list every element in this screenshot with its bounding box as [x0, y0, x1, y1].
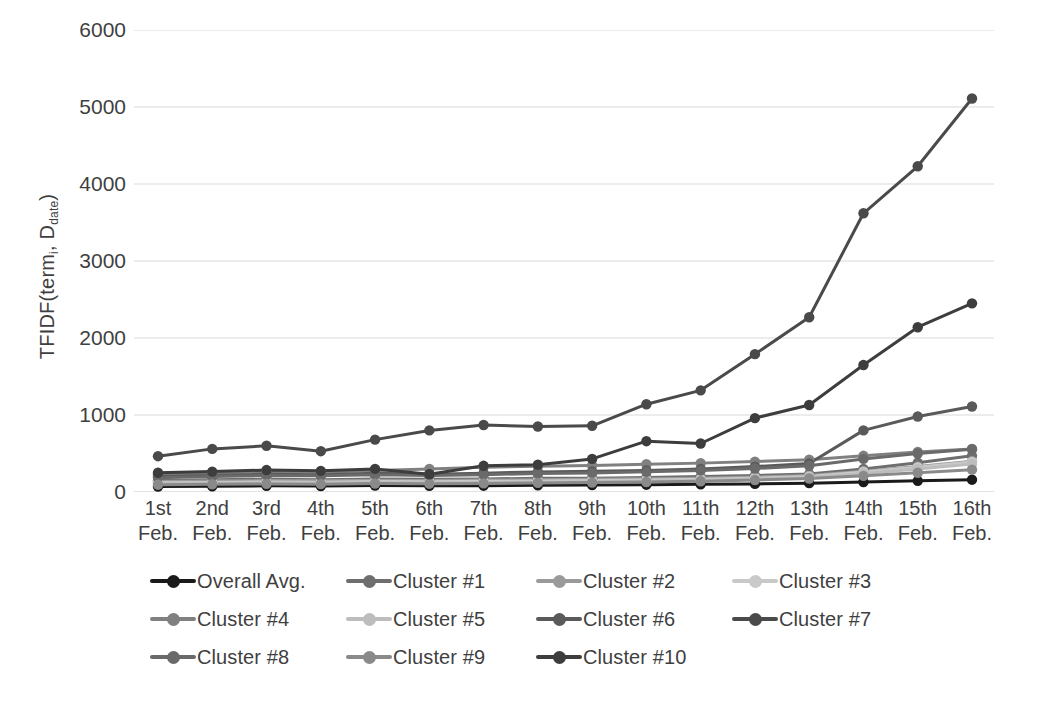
data-point-marker: [587, 477, 597, 487]
data-point-marker: [587, 468, 597, 478]
data-point-marker: [695, 476, 705, 486]
data-point-marker: [153, 479, 163, 489]
legend-item[interactable]: Cluster #2: [536, 570, 732, 593]
data-point-marker: [913, 161, 923, 171]
x-axis-tick: 12thFeb.: [735, 496, 775, 546]
data-point-marker: [261, 465, 271, 475]
data-point-marker: [695, 385, 705, 395]
data-point-marker: [587, 421, 597, 431]
data-point-marker: [261, 441, 271, 451]
data-point-marker: [804, 461, 814, 471]
legend-label: Cluster #4: [197, 608, 289, 631]
data-point-marker: [750, 413, 760, 423]
legend-item[interactable]: Cluster #7: [732, 608, 922, 631]
data-point-marker: [641, 467, 651, 477]
data-point-marker: [858, 454, 868, 464]
y-axis-tick: 6000: [40, 18, 126, 42]
legend-label: Cluster #6: [583, 608, 675, 631]
data-point-marker: [478, 478, 488, 488]
legend-item[interactable]: Cluster #5: [346, 608, 536, 631]
legend-marker-icon: [346, 573, 392, 589]
series-line: [158, 99, 972, 457]
data-point-marker: [316, 479, 326, 489]
data-point-marker: [641, 399, 651, 409]
data-point-marker: [533, 478, 543, 488]
data-point-marker: [370, 478, 380, 488]
data-point-marker: [967, 474, 977, 484]
legend-item[interactable]: Cluster #6: [536, 608, 732, 631]
y-axis-tick-labels: 6000500040003000200010000: [30, 0, 126, 703]
legend-marker-icon: [150, 649, 196, 665]
data-point-marker: [750, 463, 760, 473]
legend-label: Cluster #3: [779, 570, 871, 593]
x-axis-tick: 11thFeb.: [681, 496, 721, 546]
legend-marker-icon: [536, 573, 582, 589]
legend-marker-icon: [536, 611, 582, 627]
legend-label: Cluster #9: [393, 646, 485, 669]
data-point-marker: [207, 444, 217, 454]
x-axis-tick: 6thFeb.: [409, 496, 449, 546]
legend-marker-icon: [536, 649, 582, 665]
data-point-marker: [370, 464, 380, 474]
legend-row: Overall Avg.Cluster #1Cluster #2Cluster …: [150, 562, 930, 600]
legend-marker-icon: [346, 611, 392, 627]
legend-marker-icon: [150, 611, 196, 627]
data-point-marker: [967, 444, 977, 454]
x-axis-tick: 10thFeb.: [626, 496, 666, 546]
data-point-marker: [750, 475, 760, 485]
data-point-marker: [695, 465, 705, 475]
x-axis-tick: 13thFeb.: [789, 496, 829, 546]
data-point-marker: [153, 451, 163, 461]
data-point-marker: [533, 421, 543, 431]
plot-area: [134, 30, 994, 492]
data-point-marker: [424, 469, 434, 479]
legend-marker-icon: [732, 573, 778, 589]
data-point-marker: [913, 448, 923, 458]
data-point-marker: [858, 360, 868, 370]
legend-item[interactable]: Cluster #3: [732, 570, 922, 593]
legend-label: Overall Avg.: [197, 570, 306, 593]
data-point-marker: [153, 468, 163, 478]
legend-row: Cluster #8Cluster #9Cluster #10: [150, 638, 930, 676]
data-point-marker: [587, 454, 597, 464]
data-point-marker: [424, 478, 434, 488]
data-point-marker: [967, 464, 977, 474]
gridlines: [134, 30, 994, 492]
series-lines: [158, 99, 972, 487]
legend-item[interactable]: Cluster #9: [346, 646, 536, 669]
data-point-marker: [804, 312, 814, 322]
x-axis-tick: 7thFeb.: [464, 496, 504, 546]
data-point-marker: [641, 436, 651, 446]
data-point-marker: [695, 438, 705, 448]
legend-item[interactable]: Cluster #10: [536, 646, 732, 669]
data-point-marker: [370, 434, 380, 444]
x-axis-tick: 4thFeb.: [301, 496, 341, 546]
legend-item[interactable]: Cluster #1: [346, 570, 536, 593]
data-point-marker: [641, 477, 651, 487]
x-axis-tick: 3rdFeb.: [247, 496, 287, 546]
legend-label: Cluster #8: [197, 646, 289, 669]
y-axis-tick: 3000: [40, 249, 126, 273]
legend-marker-icon: [732, 611, 778, 627]
data-point-marker: [316, 446, 326, 456]
legend-item[interactable]: Cluster #4: [150, 608, 346, 631]
legend-marker-icon: [150, 573, 196, 589]
data-point-marker: [804, 400, 814, 410]
data-point-marker: [207, 479, 217, 489]
x-axis-tick: 16thFeb.: [952, 496, 992, 546]
series-markers: [153, 93, 977, 491]
y-axis-tick: 1000: [40, 403, 126, 427]
legend-row: Cluster #4Cluster #5Cluster #6Cluster #7: [150, 600, 930, 638]
legend-item[interactable]: Overall Avg.: [150, 570, 346, 593]
legend-item[interactable]: Cluster #8: [150, 646, 346, 669]
data-point-marker: [750, 349, 760, 359]
y-axis-tick: 0: [40, 480, 126, 504]
x-axis-tick: 2ndFeb.: [192, 496, 232, 546]
x-axis-tick: 14thFeb.: [843, 496, 883, 546]
data-point-marker: [478, 420, 488, 430]
data-point-marker: [967, 401, 977, 411]
data-point-marker: [858, 208, 868, 218]
data-point-marker: [261, 479, 271, 489]
data-point-marker: [967, 298, 977, 308]
x-axis-tick: 8thFeb.: [518, 496, 558, 546]
